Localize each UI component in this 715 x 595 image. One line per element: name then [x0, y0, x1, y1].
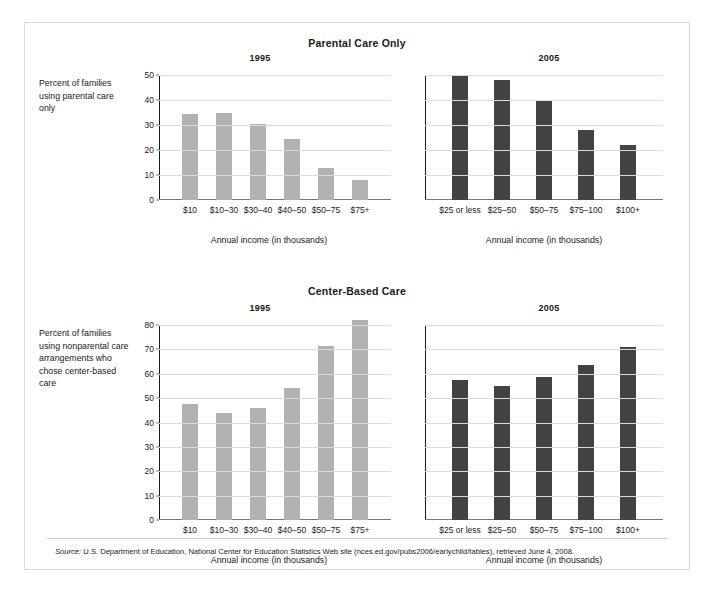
chart-parental-care-only: Parental Care Only Percent of families u…	[25, 23, 689, 265]
panel-parental-1995: 1995 01020304050$10$10–30$30–40$40–50$50…	[129, 53, 391, 253]
chart-center-based-care: Center-Based Care Percent of families us…	[25, 271, 689, 539]
y-tick-label: 0	[149, 195, 154, 205]
source-note: Source: U.S. Department of Education, Na…	[55, 546, 671, 557]
y-tick-mark	[156, 446, 159, 447]
plot-area-parental-2005: $25 or less$25–50$50–75$75–100$100+	[425, 75, 663, 200]
bar	[352, 180, 368, 200]
x-tick-label: $25 or less	[439, 525, 481, 535]
y-tick-mark	[156, 495, 159, 496]
gridline	[425, 150, 663, 151]
x-tick-label: $75+	[350, 525, 369, 535]
x-tick-label: $10	[183, 525, 197, 535]
gridline	[425, 325, 663, 326]
source-label: Source:	[55, 547, 81, 556]
gridline	[159, 471, 391, 472]
y-tick-label: 0	[149, 515, 154, 525]
y-axis-label-center: Percent of families using nonparental ca…	[39, 327, 131, 390]
source-text: U.S. Department of Education, National C…	[81, 547, 574, 556]
x-tick-label: $100+	[616, 525, 640, 535]
gridline	[159, 150, 391, 151]
gridline	[425, 125, 663, 126]
bar	[216, 413, 232, 520]
panel-year-center-1995: 1995	[129, 303, 391, 313]
y-tick-mark	[156, 422, 159, 423]
y-tick-label: 80	[145, 320, 154, 330]
y-tick-label: 60	[145, 369, 154, 379]
footer-divider	[47, 538, 667, 539]
bar	[250, 408, 266, 520]
x-tick-label: $10	[183, 205, 197, 215]
x-axis-title-parental-1995: Annual income (in thousands)	[147, 235, 391, 245]
gridline	[425, 374, 663, 375]
y-tick-label: 10	[145, 170, 154, 180]
bar	[284, 139, 300, 200]
bar	[578, 365, 594, 520]
panel-year-parental-2005: 2005	[425, 53, 673, 63]
x-tick-label: $50–75	[530, 205, 558, 215]
gridline	[159, 374, 391, 375]
y-tick-label: 20	[145, 145, 154, 155]
gridline	[159, 125, 391, 126]
y-tick-mark	[156, 349, 159, 350]
gridline	[425, 398, 663, 399]
bars-parental-1995	[159, 75, 391, 200]
y-tick-label: 50	[145, 393, 154, 403]
x-tick-label: $75+	[350, 205, 369, 215]
panel-center-1995: 1995 01020304050607080$10$10–30$30–40$40…	[129, 303, 391, 533]
panel-center-2005: 2005 $25 or less$25–50$50–75$75–100$100+…	[425, 303, 673, 533]
gridline	[425, 423, 663, 424]
y-tick-label: 20	[145, 466, 154, 476]
panel-year-center-2005: 2005	[425, 303, 673, 313]
y-tick-label: 30	[145, 120, 154, 130]
y-tick-mark	[156, 75, 159, 76]
y-axis-label-parental: Percent of families using parental care …	[39, 77, 127, 115]
bar	[620, 145, 636, 200]
bars-parental-2005	[425, 75, 663, 200]
y-tick-label: 50	[145, 70, 154, 80]
gridline	[425, 349, 663, 350]
gridline	[159, 496, 391, 497]
y-tick-label: 30	[145, 442, 154, 452]
figure-frame: Parental Care Only Percent of families u…	[24, 22, 690, 570]
x-tick-label: $40–50	[278, 205, 306, 215]
bar	[578, 130, 594, 200]
bar	[284, 388, 300, 520]
panel-year-parental-1995: 1995	[129, 53, 391, 63]
gridline	[159, 75, 391, 76]
y-tick-mark	[156, 325, 159, 326]
x-tick-label: $50–75	[530, 525, 558, 535]
bar	[452, 380, 468, 520]
y-tick-mark	[156, 373, 159, 374]
x-tick-label: $50–75	[312, 205, 340, 215]
x-axis-title-parental-2005: Annual income (in thousands)	[425, 235, 663, 245]
x-tick-label: $25–50	[488, 525, 516, 535]
x-tick-label: $100+	[616, 205, 640, 215]
gridline	[425, 447, 663, 448]
y-tick-mark	[156, 125, 159, 126]
x-tick-label: $25–50	[488, 205, 516, 215]
gridline	[159, 175, 391, 176]
x-tick-label: $10–30	[210, 525, 238, 535]
bar	[250, 124, 266, 200]
gridline	[159, 423, 391, 424]
plot-area-parental-1995: 01020304050$10$10–30$30–40$40–50$50–75$7…	[159, 75, 391, 200]
x-tick-label: $10–30	[210, 205, 238, 215]
y-tick-mark	[156, 175, 159, 176]
bar	[494, 80, 510, 200]
gridline	[425, 100, 663, 101]
plot-area-center-1995: 01020304050607080$10$10–30$30–40$40–50$5…	[159, 325, 391, 520]
panel-parental-2005: 2005 $25 or less$25–50$50–75$75–100$100+…	[425, 53, 673, 253]
x-tick-label: $25 or less	[439, 205, 481, 215]
y-tick-label: 40	[145, 418, 154, 428]
x-tick-label: $75–100	[569, 205, 602, 215]
y-tick-mark	[156, 200, 159, 201]
bar	[318, 346, 334, 520]
gridline	[425, 175, 663, 176]
x-tick-label: $50–75	[312, 525, 340, 535]
chart-title-center: Center-Based Care	[25, 285, 689, 297]
gridline	[425, 496, 663, 497]
y-tick-mark	[156, 471, 159, 472]
gridline	[159, 325, 391, 326]
bar	[452, 75, 468, 200]
y-tick-mark	[156, 398, 159, 399]
